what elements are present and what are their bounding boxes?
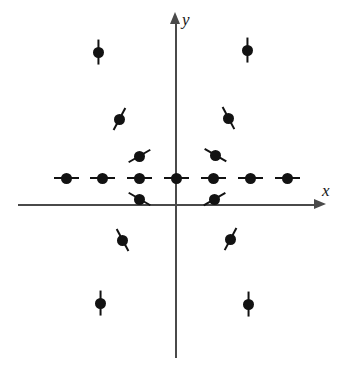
spin-dot-icon <box>223 113 234 124</box>
spin-dot-icon <box>134 194 145 205</box>
spin-dot-icon <box>117 235 128 246</box>
x-axis-line <box>18 204 318 206</box>
x-axis-label: x <box>322 182 330 199</box>
spin-marker <box>85 161 119 195</box>
spin-dot-icon <box>95 298 106 309</box>
spin-marker <box>230 33 264 67</box>
spin-dot-icon <box>245 173 256 184</box>
spin-marker <box>122 182 156 216</box>
spin-marker <box>83 286 117 320</box>
spin-marker <box>102 102 136 136</box>
y-axis-arrowhead-icon <box>170 12 180 24</box>
spin-dot-icon <box>134 151 145 162</box>
spin-dot-icon <box>209 194 220 205</box>
spin-dot-icon <box>282 173 293 184</box>
spin-dot-icon <box>242 45 253 56</box>
x-axis-arrowhead-icon <box>314 199 326 209</box>
spin-configuration-figure: x y <box>0 0 342 379</box>
spin-dot-icon <box>114 114 125 125</box>
spin-marker <box>197 182 231 216</box>
spin-marker <box>211 101 245 135</box>
spin-marker <box>270 161 304 195</box>
y-axis-label: y <box>182 11 190 28</box>
spin-dot-icon <box>97 173 108 184</box>
spin-dot-icon <box>243 299 254 310</box>
spin-marker <box>159 161 193 195</box>
spin-marker <box>213 222 247 256</box>
spin-marker <box>49 161 83 195</box>
spin-marker <box>105 223 139 257</box>
spin-marker <box>231 287 265 321</box>
spin-marker <box>81 35 115 69</box>
spin-dot-icon <box>61 173 72 184</box>
spin-dot-icon <box>171 173 182 184</box>
spin-dot-icon <box>225 234 236 245</box>
spin-marker <box>233 161 267 195</box>
spin-dot-icon <box>93 47 104 58</box>
spin-dot-icon <box>210 150 221 161</box>
